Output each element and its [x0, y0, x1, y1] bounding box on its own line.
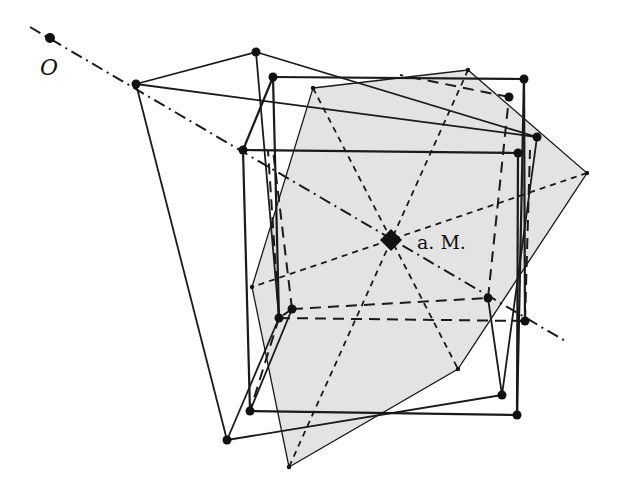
origin-label: O [40, 55, 58, 80]
gray-plane-hexagon [252, 70, 587, 467]
geometry-diagram: O a. M. [0, 0, 620, 489]
center-label: a. M. [417, 231, 466, 253]
origin-point [45, 33, 55, 43]
